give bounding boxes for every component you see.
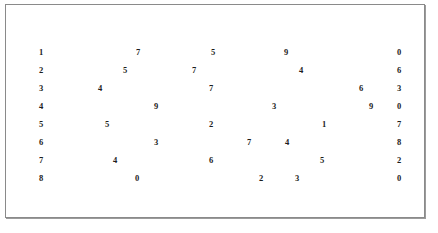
digit-cell: 3 <box>397 79 401 97</box>
digit-cell: 5 <box>105 115 109 133</box>
digit-cell: 5 <box>39 115 43 133</box>
digit-cell: 1 <box>322 115 326 133</box>
digit-cell: 6 <box>397 61 401 79</box>
digit-cell: 5 <box>123 61 127 79</box>
digit-cell: 3 <box>295 169 299 187</box>
digit-cell: 3 <box>39 79 43 97</box>
digit-cell: 7 <box>192 61 196 79</box>
digit-row: 34763 <box>6 79 424 97</box>
figure-frame: 1759025746347634939055217637487465280230 <box>5 4 425 218</box>
digit-cell: 6 <box>359 79 363 97</box>
digit-row: 63748 <box>6 133 424 151</box>
digit-cell: 8 <box>39 169 43 187</box>
digit-cell: 2 <box>397 151 401 169</box>
digit-cell: 9 <box>369 97 373 115</box>
digit-cell: 0 <box>397 43 401 61</box>
digit-cell: 6 <box>209 151 213 169</box>
digit-row: 80230 <box>6 169 424 187</box>
digit-cell: 4 <box>98 79 102 97</box>
digit-row: 55217 <box>6 115 424 133</box>
digit-cell: 3 <box>272 97 276 115</box>
digit-cell: 0 <box>135 169 139 187</box>
digit-cell: 2 <box>259 169 263 187</box>
digit-cell: 5 <box>320 151 324 169</box>
digit-cell: 3 <box>154 133 158 151</box>
digit-cell: 4 <box>39 97 43 115</box>
digit-row: 25746 <box>6 61 424 79</box>
digit-cell: 7 <box>247 133 251 151</box>
digit-grid: 1759025746347634939055217637487465280230 <box>6 5 424 217</box>
digit-cell: 2 <box>209 115 213 133</box>
digit-cell: 4 <box>285 133 289 151</box>
digit-cell: 8 <box>397 133 401 151</box>
digit-row: 49390 <box>6 97 424 115</box>
digit-cell: 0 <box>397 169 401 187</box>
digit-cell: 7 <box>209 79 213 97</box>
digit-cell: 5 <box>211 43 215 61</box>
digit-cell: 4 <box>113 151 117 169</box>
digit-cell: 4 <box>299 61 303 79</box>
digit-cell: 7 <box>397 115 401 133</box>
digit-cell: 2 <box>39 61 43 79</box>
digit-cell: 7 <box>136 43 140 61</box>
digit-cell: 0 <box>397 97 401 115</box>
digit-row: 74652 <box>6 151 424 169</box>
digit-cell: 9 <box>154 97 158 115</box>
digit-cell: 9 <box>284 43 288 61</box>
digit-cell: 7 <box>39 151 43 169</box>
digit-row: 17590 <box>6 43 424 61</box>
digit-cell: 1 <box>39 43 43 61</box>
digit-cell: 6 <box>39 133 43 151</box>
